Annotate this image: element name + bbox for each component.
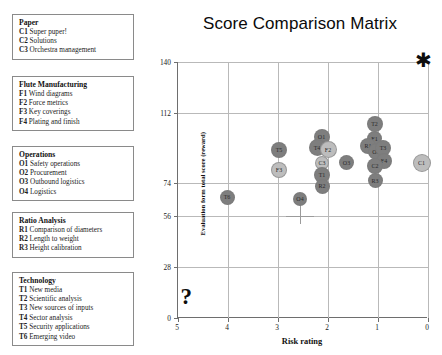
bubble-label: T5 bbox=[276, 147, 283, 153]
bubble-t6[interactable]: T6 bbox=[220, 190, 235, 205]
bubble-label: C1 bbox=[418, 160, 425, 166]
bubble-label: F2 bbox=[325, 147, 331, 153]
bubble-label: R3 bbox=[371, 178, 378, 184]
gridline-vertical bbox=[278, 62, 279, 318]
bubble-label: T1 bbox=[319, 172, 326, 178]
y-axis-title-wrap: Evaluation form total score (reward) bbox=[167, 62, 187, 318]
x-tick-mark bbox=[228, 318, 229, 322]
gridline-horizontal bbox=[178, 62, 428, 63]
star-marker-icon: ✱ bbox=[415, 50, 432, 70]
bubble-label: T3 bbox=[380, 145, 387, 151]
y-tick-label: 112 bbox=[151, 109, 171, 118]
gridline-horizontal bbox=[178, 183, 428, 184]
bubble-label: O3 bbox=[343, 160, 350, 166]
bubble-o4[interactable]: O4 bbox=[293, 192, 307, 206]
bubble-t5[interactable]: T5 bbox=[271, 142, 287, 158]
bubble-label: R2 bbox=[318, 183, 325, 189]
x-tick-mark bbox=[428, 318, 429, 322]
bubble-label: T2 bbox=[371, 121, 378, 127]
y-axis-title: Evaluation form total score (reward) bbox=[199, 109, 207, 259]
gridline-vertical bbox=[428, 62, 429, 318]
x-tick-mark bbox=[328, 318, 329, 322]
x-tick-mark bbox=[178, 318, 179, 322]
bubble-f3[interactable]: F3 bbox=[271, 162, 287, 178]
gridline-horizontal bbox=[178, 267, 428, 268]
y-tick-label: 56 bbox=[151, 212, 171, 221]
bubble-label: C2 bbox=[371, 163, 378, 169]
y-tick-label: 28 bbox=[151, 263, 171, 272]
x-tick-label: 4 bbox=[220, 323, 234, 332]
bubble-c1[interactable]: C1 bbox=[413, 154, 431, 172]
y-tick-label: 74 bbox=[151, 179, 171, 188]
bubble-t2[interactable]: T2 bbox=[367, 116, 383, 132]
x-axis-title: Risk rating bbox=[177, 337, 427, 346]
bubble-label: C3 bbox=[318, 160, 325, 166]
bubble-label: T6 bbox=[224, 194, 231, 200]
plot-area: T6T5F3O4O1T4F2C3T1R2O3T2F1R1O2T3F4C2R3C1… bbox=[177, 62, 427, 318]
gridline-vertical bbox=[378, 62, 379, 318]
chart-title: Score Comparison Matrix bbox=[160, 14, 440, 34]
gridline-horizontal bbox=[178, 113, 428, 114]
bubble-r3[interactable]: R3 bbox=[368, 173, 383, 188]
y-tick-label: 140 bbox=[151, 58, 171, 67]
x-tick-label: 3 bbox=[270, 323, 284, 332]
bubble-r2[interactable]: R2 bbox=[315, 179, 330, 194]
y-tick-label: 0 bbox=[151, 314, 171, 323]
x-tick-label: 2 bbox=[320, 323, 334, 332]
bubble-label: O4 bbox=[296, 196, 303, 202]
x-tick-label: 0 bbox=[420, 323, 434, 332]
screenshot-root: PaperC1 Super puper!C2 SolutionsC3 Orche… bbox=[0, 0, 442, 355]
bubble-c2[interactable]: C2 bbox=[367, 158, 383, 174]
bubble-label: F3 bbox=[276, 167, 282, 173]
x-tick-mark bbox=[378, 318, 379, 322]
x-tick-label: 5 bbox=[170, 323, 184, 332]
x-tick-mark bbox=[278, 318, 279, 322]
x-tick-label: 1 bbox=[370, 323, 384, 332]
bubble-o3[interactable]: O3 bbox=[339, 155, 354, 170]
score-comparison-chart: Score Comparison Matrix T6T5F3O4O1T4F2C3… bbox=[0, 0, 442, 355]
